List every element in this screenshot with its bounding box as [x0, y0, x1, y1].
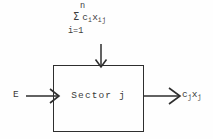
summation-upper-limit: n [68, 1, 146, 11]
summation-formula: n Σcixij i=1 [68, 1, 146, 36]
output-label: cjxj [182, 89, 202, 101]
input-label-e: E [13, 89, 19, 100]
output-variable-subscript: j [198, 94, 202, 101]
arrow-right-icon [143, 86, 181, 106]
sector-box-label: Sector j [54, 90, 143, 101]
diagram-canvas: n Σcixij i=1 E Sector j cjxj [0, 0, 213, 139]
summation-body: Σcixij [68, 11, 146, 26]
sector-box: Sector j [53, 65, 144, 132]
formula-variable-subscript: ij [98, 17, 106, 24]
sigma-icon: Σ [73, 11, 79, 22]
summation-lower-limit: i=1 [68, 26, 146, 36]
